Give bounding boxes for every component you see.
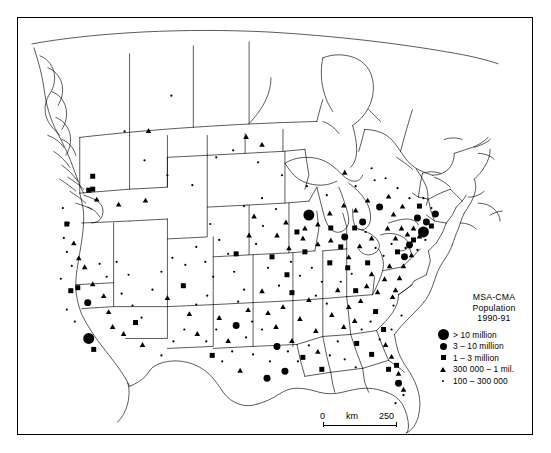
population-symbol (195, 331, 201, 336)
population-symbol (299, 275, 301, 277)
population-map-figure: MSA-CMA Population 1990-91 > 10 million … (0, 0, 551, 453)
population-symbol (382, 276, 388, 281)
population-symbol (340, 281, 342, 283)
population-symbol (411, 237, 416, 242)
population-symbol (405, 232, 411, 237)
population-symbol (131, 305, 133, 307)
population-symbol (82, 264, 88, 269)
population-symbol (371, 167, 373, 169)
population-symbol (335, 287, 341, 292)
population-symbol (313, 328, 319, 333)
population-symbol (232, 149, 234, 151)
population-symbol (357, 243, 363, 248)
coastlines-and-borders (32, 30, 502, 433)
population-symbol (414, 215, 421, 222)
legend-class-list: > 10 million 3 – 10 million 1 – 3 millio… (433, 329, 551, 387)
population-symbol (390, 294, 396, 299)
legend-label-100k-to-300k: 100 – 300 000 (453, 376, 508, 386)
population-symbol (215, 328, 217, 330)
population-symbol (341, 324, 347, 329)
population-symbol (74, 320, 76, 322)
population-symbol (422, 197, 424, 199)
population-symbol (432, 211, 439, 218)
population-symbol (394, 363, 399, 368)
population-symbol (195, 304, 197, 306)
population-symbol (209, 223, 211, 225)
population-symbol (264, 375, 271, 382)
population-symbol (289, 338, 295, 343)
population-symbol (140, 342, 146, 347)
triangle-icon (433, 367, 453, 372)
population-symbol (294, 229, 299, 234)
population-symbol (396, 187, 398, 189)
population-symbol (319, 367, 324, 372)
population-symbol (71, 240, 77, 245)
population-symbol (290, 261, 292, 263)
population-symbol (270, 254, 275, 259)
population-symbol (275, 208, 277, 210)
population-symbol (386, 194, 392, 199)
population-symbol (369, 352, 374, 357)
population-symbol (401, 387, 407, 392)
population-symbol (390, 243, 392, 245)
population-symbol (127, 274, 129, 276)
population-symbol (181, 283, 186, 288)
population-symbol (66, 309, 68, 311)
population-symbol (259, 142, 265, 147)
population-symbol (76, 255, 82, 260)
population-symbol (210, 353, 215, 358)
population-symbol (311, 267, 313, 269)
population-symbol (243, 205, 245, 207)
scale-min-label: 0 (320, 411, 325, 421)
population-symbol (365, 198, 371, 203)
population-symbol (329, 312, 335, 317)
population-symbol (341, 233, 348, 240)
population-symbol (233, 322, 240, 329)
population-symbol (140, 316, 142, 318)
population-symbol (237, 301, 239, 303)
population-symbol (400, 204, 406, 209)
population-symbol (409, 252, 415, 257)
population-symbol (62, 207, 64, 209)
population-symbol (344, 358, 346, 360)
population-symbol (216, 315, 222, 320)
population-symbol (423, 219, 430, 226)
population-symbol (205, 340, 207, 342)
map-legend: MSA-CMA Population 1990-91 > 10 million … (433, 292, 551, 387)
population-symbol (83, 333, 94, 344)
population-symbol (86, 188, 91, 193)
population-symbol (215, 156, 217, 158)
population-symbol (395, 249, 400, 254)
population-symbol (394, 402, 396, 404)
population-symbol (342, 170, 348, 175)
population-symbol (278, 285, 280, 287)
population-symbol (68, 222, 70, 224)
population-symbol (191, 184, 193, 186)
population-symbol (315, 222, 321, 227)
population-symbol (204, 261, 206, 263)
population-symbol (243, 134, 249, 139)
population-symbol (160, 271, 162, 273)
population-symbol (187, 311, 193, 316)
population-symbol (315, 295, 317, 297)
population-symbol (424, 239, 426, 241)
population-symbol (262, 225, 264, 227)
legend-row-1-to-3-million: 1 – 3 million (433, 352, 551, 364)
population-symbol (206, 295, 208, 297)
population-symbol (315, 349, 321, 354)
population-symbol (345, 265, 350, 270)
legend-title: MSA-CMA Population 1990-91 (451, 292, 537, 324)
population-symbol (281, 368, 288, 375)
legend-label-300k-to-1-million: 300 000 – 1 mil. (453, 364, 514, 374)
population-symbol (378, 338, 380, 340)
population-symbol (259, 288, 265, 293)
population-symbol (396, 371, 402, 376)
population-symbol (151, 289, 153, 291)
population-symbol (252, 353, 254, 355)
population-symbol (353, 288, 358, 293)
population-symbol (404, 247, 406, 249)
population-symbol (68, 288, 73, 293)
population-symbol (355, 185, 357, 187)
population-symbol (397, 275, 403, 280)
population-symbol (251, 320, 253, 322)
